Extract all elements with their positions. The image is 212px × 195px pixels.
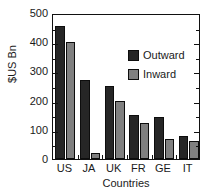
bar-group <box>55 15 75 159</box>
bar-group <box>80 15 100 159</box>
bar-ja-inward <box>91 153 101 159</box>
legend: OutwardInward <box>128 47 185 85</box>
y-axis-tick-right <box>196 30 199 31</box>
y-axis-tick-labels: 0100200300400500 <box>14 0 48 195</box>
y-axis-tick-right <box>194 73 199 74</box>
x-axis-title: Countries <box>52 177 200 189</box>
y-axis-tick-right <box>196 88 199 89</box>
x-tick-label: UK <box>106 162 121 174</box>
x-tick-label: GE <box>155 162 171 174</box>
y-axis-tick <box>53 59 56 60</box>
y-tick-label: 400 <box>14 37 48 48</box>
legend-label: Outward <box>143 50 185 61</box>
bar-group <box>179 15 199 159</box>
x-tick-label: US <box>57 162 72 174</box>
x-tick-label: FR <box>131 162 146 174</box>
y-axis-tick <box>53 73 58 74</box>
x-axis-tick <box>78 155 79 159</box>
bar-fr-inward <box>140 123 150 159</box>
bar-us-inward <box>66 42 76 159</box>
bar-ge-outward <box>154 117 164 159</box>
x-axis-tick <box>152 155 153 159</box>
bar-fr-outward <box>129 115 139 159</box>
legend-item-inward: Inward <box>128 66 185 82</box>
x-tick-label: JA <box>83 162 96 174</box>
bars-container <box>53 15 199 159</box>
x-axis-tick-labels: USJAUKFRGEIT <box>52 162 200 176</box>
y-axis-tick-right <box>194 103 199 104</box>
y-axis-tick-right <box>196 59 199 60</box>
y-axis-tick <box>53 117 56 118</box>
y-tick-label: 200 <box>14 96 48 107</box>
y-axis-tick <box>53 103 58 104</box>
bar-it-outward <box>179 136 189 159</box>
bar-group <box>154 15 174 159</box>
plot-area: OutwardInward <box>52 14 200 160</box>
y-axis-tick <box>53 30 56 31</box>
bar-chart-figure: $US Bn 0100200300400500 OutwardInward US… <box>0 0 212 195</box>
bar-group <box>105 15 125 159</box>
legend-item-outward: Outward <box>128 47 185 63</box>
legend-swatch-icon <box>128 50 139 61</box>
y-tick-label: 0 <box>14 154 48 165</box>
y-axis-tick <box>53 44 58 45</box>
y-axis-tick <box>53 88 56 89</box>
y-axis-tick-right <box>196 117 199 118</box>
y-tick-label: 300 <box>14 66 48 77</box>
bar-ge-inward <box>165 139 175 159</box>
bar-group <box>129 15 149 159</box>
bar-ja-outward <box>80 80 90 159</box>
bar-it-inward <box>189 141 199 159</box>
x-axis-tick <box>127 155 128 159</box>
x-tick-label: IT <box>183 162 193 174</box>
y-axis-tick-right <box>194 132 199 133</box>
x-axis-tick <box>176 155 177 159</box>
bar-uk-outward <box>105 86 115 159</box>
y-tick-label: 500 <box>14 8 48 19</box>
y-axis-tick <box>53 132 58 133</box>
y-axis-tick-right <box>194 44 199 45</box>
y-axis-tick <box>53 146 56 147</box>
y-axis-tick-right <box>196 146 199 147</box>
legend-swatch-icon <box>128 69 139 80</box>
legend-label: Inward <box>143 69 176 80</box>
bar-uk-inward <box>115 101 125 159</box>
x-axis-tick <box>102 155 103 159</box>
y-tick-label: 100 <box>14 125 48 136</box>
bar-us-outward <box>55 26 65 159</box>
